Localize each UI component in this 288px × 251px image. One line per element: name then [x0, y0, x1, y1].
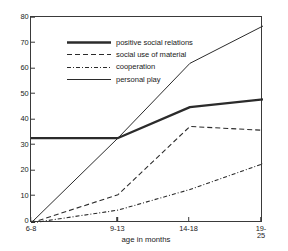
plot-area: 80 70 60 50 40 30 20 10 — [30, 16, 262, 222]
y-tick-mark — [31, 42, 35, 43]
legend-item-cooperation: cooperation — [67, 63, 193, 72]
y-tick-label: 70 — [20, 39, 31, 46]
legend-line-dash-dot-icon — [67, 63, 111, 72]
legend-item-positive-social-relations: positive social relations — [67, 38, 193, 47]
legend-label: personal play — [116, 76, 161, 84]
x-tick-label: 9-13 — [110, 225, 124, 232]
legend-item-personal-play: personal play — [67, 75, 193, 84]
x-tick-mark — [188, 217, 189, 221]
y-tick-label: 50 — [20, 90, 31, 97]
y-tick-label: 10 — [20, 192, 31, 199]
y-tick-mark — [31, 16, 35, 17]
legend-line-solid-thick-icon — [67, 38, 111, 47]
x-tick-6-8: 6-8 — [26, 221, 36, 232]
y-tick-mark — [31, 144, 35, 145]
y-tick-50: 50 — [20, 90, 31, 97]
y-tick-mark — [31, 169, 35, 170]
line-chart: 80 70 60 50 40 30 20 10 — [0, 0, 288, 251]
y-tick-10: 10 — [20, 192, 31, 199]
legend-line-solid-thin-icon — [67, 75, 111, 84]
legend-item-social-use-of-material: social use of material — [67, 50, 193, 59]
legend-line-dashed-icon — [67, 50, 111, 59]
y-tick-mark — [31, 93, 35, 94]
legend-label: cooperation — [116, 63, 155, 71]
y-tick-label: 20 — [20, 166, 31, 173]
series-line — [31, 126, 263, 223]
x-tick-mark — [117, 217, 118, 221]
y-tick-label: 40 — [20, 115, 31, 122]
x-tick-mark — [30, 217, 31, 221]
legend-label: positive social relations — [116, 39, 193, 47]
x-tick-9-13: 9-13 — [110, 221, 124, 232]
y-tick-mark — [31, 67, 35, 68]
y-tick-70: 70 — [20, 39, 31, 46]
y-tick-60: 60 — [20, 64, 31, 71]
x-tick-label: 6-8 — [26, 225, 36, 232]
y-tick-label: 30 — [20, 141, 31, 148]
x-tick-label: 14-18 — [179, 225, 197, 232]
series-line — [31, 164, 263, 223]
legend: positive social relations social use of … — [67, 38, 193, 84]
y-tick-label: 60 — [20, 64, 31, 71]
x-tick-14-18: 14-18 — [179, 221, 197, 232]
y-tick-mark — [31, 195, 35, 196]
y-tick-20: 20 — [20, 166, 31, 173]
y-tick-label: 80 — [20, 13, 31, 20]
y-tick-80: 80 — [20, 13, 31, 20]
x-tick-mark — [260, 217, 261, 221]
y-tick-40: 40 — [20, 115, 31, 122]
x-axis-title: age in months — [30, 236, 262, 244]
y-tick-30: 30 — [20, 141, 31, 148]
y-tick-mark — [31, 118, 35, 119]
legend-label: social use of material — [116, 51, 186, 59]
series-line — [31, 99, 263, 138]
